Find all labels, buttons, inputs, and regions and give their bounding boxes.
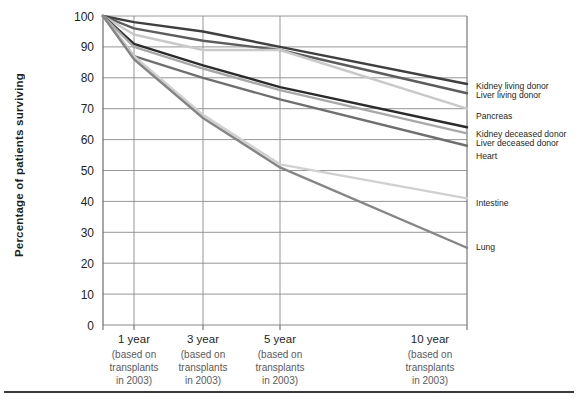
series-end-label: Liver living donor <box>476 90 541 100</box>
x-tick-label-main: 1 year <box>118 333 150 345</box>
x-tick-label-sub: in 2003) <box>262 375 298 386</box>
y-tick-label: 50 <box>81 164 95 178</box>
series-end-label: Liver deceased donor <box>476 138 559 148</box>
x-tick-label-main: 5 year <box>264 333 296 345</box>
x-tick-label-main: 3 year <box>187 333 219 345</box>
x-tick-label-sub: (based on <box>181 349 225 360</box>
series-end-label: Intestine <box>476 198 509 208</box>
x-tick-label-sub: in 2003) <box>185 375 221 386</box>
y-tick-labels: 1009080706050403020100 <box>74 10 94 333</box>
x-tick-label-sub: (based on <box>112 349 156 360</box>
y-tick-label: 60 <box>81 133 95 147</box>
x-tick-label-sub: in 2003) <box>116 375 152 386</box>
y-tick-label: 30 <box>81 226 95 240</box>
chart-canvas: 1009080706050403020100 1 year(based ontr… <box>0 0 578 403</box>
series-line <box>103 16 467 198</box>
y-tick-label: 40 <box>81 195 95 209</box>
y-tick-label: 80 <box>81 71 95 85</box>
x-tick-label-sub: transplants <box>179 362 228 373</box>
series-end-labels: Kidney living donorLiver living donorPan… <box>476 81 566 252</box>
y-tick-label: 90 <box>81 40 95 54</box>
y-tick-label: 0 <box>87 319 94 333</box>
x-axis-ticks <box>103 325 467 330</box>
x-tick-label-main: 10 year <box>411 333 450 345</box>
survival-chart-figure: Percentage of patients surviving 1009080… <box>0 0 578 403</box>
x-tick-label-sub: transplants <box>110 362 159 373</box>
data-series-lines <box>103 16 467 248</box>
series-end-label: Pancreas <box>476 111 512 121</box>
y-tick-label: 70 <box>81 102 95 116</box>
x-tick-labels: 1 year(based ontransplantsin 2003)3 year… <box>110 333 455 386</box>
series-end-label: Lung <box>476 242 495 252</box>
series-end-label: Heart <box>476 151 498 161</box>
x-tick-label-sub: transplants <box>256 362 305 373</box>
y-tick-label: 10 <box>81 288 95 302</box>
y-tick-label: 20 <box>81 257 95 271</box>
x-tick-label-sub: transplants <box>406 362 455 373</box>
bottom-divider <box>4 391 574 393</box>
x-tick-label-sub: in 2003) <box>412 375 448 386</box>
y-tick-label: 100 <box>74 10 94 24</box>
x-tick-label-sub: (based on <box>258 349 302 360</box>
x-tick-label-sub: (based on <box>408 349 452 360</box>
